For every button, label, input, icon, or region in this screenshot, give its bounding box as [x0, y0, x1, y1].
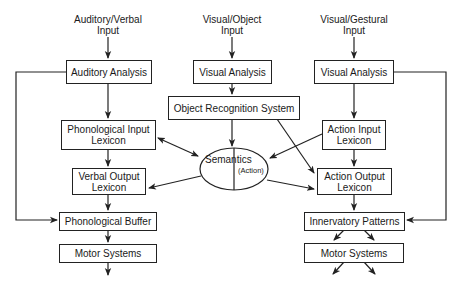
semantics-action-sublabel: (Action): [238, 167, 264, 175]
input-visual-gestural: Visual/Gestural Input: [304, 14, 404, 36]
semantics-label: Semantics: [205, 154, 252, 165]
innervatory-patterns-box: Innervatory Patterns: [304, 212, 405, 231]
action-output-lexicon-line1: Action Output: [324, 171, 385, 182]
innervatory-patterns-label: Innervatory Patterns: [309, 216, 399, 227]
action-input-lexicon-line2: Lexicon: [337, 135, 371, 146]
motor-systems-right-label: Motor Systems: [321, 248, 388, 259]
input-visual-object: Visual/Object Input: [182, 14, 282, 36]
phonological-buffer-label: Phonological Buffer: [65, 216, 152, 227]
object-recognition-system-box: Object Recognition System: [168, 96, 300, 120]
phonological-input-lexicon-box: Phonological Input Lexicon: [61, 120, 156, 150]
input-visual-object-line1: Visual/Object: [182, 14, 282, 25]
verbal-output-lexicon-line2: Lexicon: [92, 182, 126, 193]
input-visual-gestural-line2: Input: [304, 25, 404, 36]
visual-analysis-center-box: Visual Analysis: [193, 60, 272, 84]
input-auditory-verbal: Auditory/Verbal Input: [58, 14, 158, 36]
action-input-lexicon-box: Action Input Lexicon: [322, 120, 386, 150]
action-output-lexicon-line2: Lexicon: [337, 182, 371, 193]
verbal-output-lexicon-line1: Verbal Output: [78, 171, 139, 182]
visual-analysis-right-box: Visual Analysis: [314, 60, 394, 84]
visual-analysis-center-label: Visual Analysis: [199, 67, 266, 78]
phonological-input-lexicon-line2: Lexicon: [91, 135, 125, 146]
input-auditory-line2: Input: [58, 25, 158, 36]
action-input-lexicon-line1: Action Input: [328, 124, 381, 135]
verbal-output-lexicon-box: Verbal Output Lexicon: [72, 168, 146, 195]
motor-systems-right-box: Motor Systems: [304, 243, 404, 263]
object-recognition-system-label: Object Recognition System: [174, 103, 295, 114]
motor-systems-left-box: Motor Systems: [59, 244, 157, 263]
action-output-lexicon-box: Action Output Lexicon: [317, 168, 392, 195]
motor-systems-left-label: Motor Systems: [75, 248, 142, 259]
visual-analysis-right-label: Visual Analysis: [321, 67, 388, 78]
input-auditory-line1: Auditory/Verbal: [58, 14, 158, 25]
auditory-analysis-label: Auditory Analysis: [71, 67, 147, 78]
input-visual-gestural-line1: Visual/Gestural: [304, 14, 404, 25]
phonological-buffer-box: Phonological Buffer: [59, 212, 157, 231]
input-visual-object-line2: Input: [182, 25, 282, 36]
auditory-analysis-box: Auditory Analysis: [66, 60, 152, 84]
phonological-input-lexicon-line1: Phonological Input: [67, 124, 149, 135]
